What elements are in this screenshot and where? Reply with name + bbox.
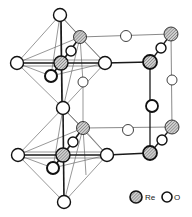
oxygen-atom xyxy=(101,149,114,162)
oxygen-atom xyxy=(156,43,166,53)
oxygen-atom xyxy=(99,57,112,70)
oxygen-atom xyxy=(54,9,67,22)
legend: Re O xyxy=(130,191,180,203)
legend-rhenium-label: Re xyxy=(145,193,156,202)
legend-oxygen-label: O xyxy=(174,193,180,202)
oxygen-atom xyxy=(146,100,158,112)
oxygen-atom xyxy=(167,75,177,85)
oxygen-atom xyxy=(57,102,70,115)
oxygen-atom xyxy=(11,57,24,70)
rhenium-atom xyxy=(74,31,87,44)
rhenium-atom xyxy=(165,120,179,134)
oxygen-atom xyxy=(123,125,134,136)
oxygen-atom xyxy=(78,77,88,87)
legend-oxygen-swatch xyxy=(162,192,172,202)
oxygen-atom xyxy=(157,135,167,145)
rhenium-atom xyxy=(143,146,157,160)
oxygen-atom xyxy=(121,31,132,42)
legend-rhenium-swatch xyxy=(130,191,142,203)
rhenium-atom xyxy=(77,122,90,135)
oxygen-atom xyxy=(45,70,57,82)
oxygen-atom xyxy=(47,162,59,174)
oxygen-atom xyxy=(68,137,78,147)
oxygen-atom xyxy=(66,46,76,56)
rhenium-atom xyxy=(164,27,178,41)
oxygen-atom xyxy=(12,149,25,162)
rhenium-atom xyxy=(143,55,157,69)
rhenium-atom xyxy=(54,56,68,70)
oxygen-atom xyxy=(58,196,71,209)
crystal-structure-diagram: Re O xyxy=(0,0,192,217)
rhenium-atom xyxy=(56,148,70,162)
atoms xyxy=(11,9,180,209)
